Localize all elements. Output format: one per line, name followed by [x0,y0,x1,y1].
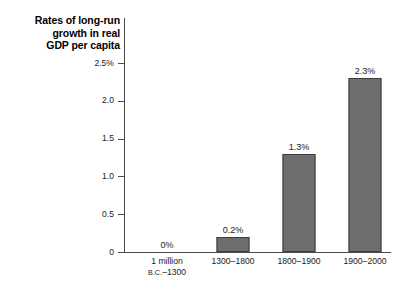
bar-chart: Rates of long-run growth in real GDP per… [0,0,402,290]
bar-group: 0% [134,18,200,252]
y-tick-mark [118,63,124,64]
bar[interactable] [283,154,316,252]
bar-group: 0.2% [200,18,266,252]
y-tick-mark [118,101,124,102]
y-tick-label: 2.5% [0,59,114,68]
x-axis-category-line-1: 1 million [151,256,183,266]
x-axis-line [124,252,391,253]
y-tick-label: 0 [0,248,114,257]
y-tick-label-text: 0.5 [4,210,114,219]
bar-value-label: 0% [160,240,173,250]
plot-area: 0%0.2%1.3%2.3% [125,18,391,252]
bar-value-label: 2.3% [355,66,376,76]
y-tick-mark [118,214,124,215]
y-tick-label: 1.0 [0,172,114,181]
y-axis-title-line-3: GDP per capita [2,39,120,52]
y-axis-title-line-1: Rates of long-run [2,14,120,27]
y-tick-label-text: 1.0 [4,172,114,181]
y-tick-label: 2.0 [0,96,114,105]
x-axis-category-line-2: B.C.–1300 [128,267,206,279]
x-axis-category-line-1: 1900–2000 [343,256,386,266]
x-axis-category-label: 1900–2000 [326,256,402,267]
y-tick-label-text: 2.5% [4,59,114,68]
bar-group: 1.3% [266,18,332,252]
y-tick-label-text: 0 [4,248,114,257]
bar-value-label: 0.2% [223,225,244,235]
y-tick-mark [118,176,124,177]
y-tick-mark [118,139,124,140]
bar[interactable] [349,78,382,252]
bar-value-label: 1.3% [289,142,310,152]
x-axis-category-line-1: 1300–1800 [211,256,254,266]
x-axis-category-year-range: –1300 [162,267,186,277]
y-tick-label: 1.5 [0,134,114,143]
bar[interactable] [217,237,250,252]
y-tick-label: 0.5 [0,210,114,219]
y-tick-label-text: 2.0 [4,96,114,105]
y-tick-mark [118,252,124,253]
y-axis-title-line-2: growth in real [2,27,120,40]
y-axis-title: Rates of long-run growth in real GDP per… [2,14,120,52]
y-tick-label-text: 1.5 [4,134,114,143]
x-axis-labels: 1 millionB.C.–13001300–18001800–19001900… [125,256,391,286]
bar-group: 2.3% [332,18,398,252]
x-axis-category-line-1: 1800–1900 [277,256,320,266]
x-axis-category-era-abbrev: B.C. [148,269,162,277]
